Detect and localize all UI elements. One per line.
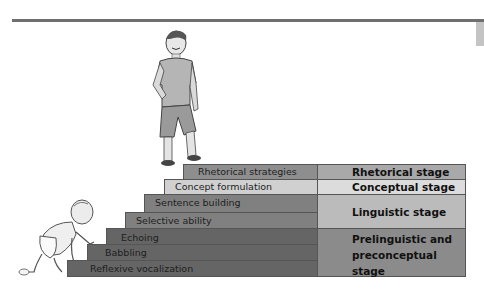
- step-label: Echoing: [121, 233, 159, 243]
- step-label: Babbling: [105, 248, 147, 258]
- stage-label: Rhetorical stage: [352, 166, 449, 178]
- stage-linguistic: Linguistic stage: [317, 194, 466, 229]
- step-label: Concept formulation: [175, 182, 272, 192]
- step-selective-ability: Selective ability: [125, 212, 318, 229]
- step-label: Selective ability: [136, 216, 212, 226]
- stage-rhetorical: Rhetorical stage: [317, 164, 466, 180]
- step-concept-formulation: Concept formulation: [164, 179, 318, 195]
- step-babbling: Babbling: [87, 244, 318, 261]
- step-label: Sentence building: [155, 198, 241, 208]
- step-label: Rhetorical strategies: [198, 167, 297, 177]
- stage-label-line-2: preconceptual: [352, 247, 452, 263]
- step-reflexive-vocalization: Reflexive vocalization: [67, 260, 318, 277]
- step-rhetorical-strategies: Rhetorical strategies: [183, 164, 318, 180]
- page-edge-tab: [476, 22, 484, 46]
- stage-conceptual: Conceptual stage: [317, 179, 466, 195]
- boy-figure-icon: [150, 27, 220, 167]
- stage-prelinguistic: Prelinguistic and preconceptual stage: [317, 228, 466, 277]
- stage-label-line-3: stage: [352, 263, 452, 279]
- stage-label: Linguistic stage: [352, 206, 446, 218]
- stage-label: Conceptual stage: [352, 181, 455, 193]
- top-rule: [12, 19, 484, 22]
- step-label: Reflexive vocalization: [90, 264, 193, 274]
- stage-label-line-1: Prelinguistic and: [352, 231, 452, 247]
